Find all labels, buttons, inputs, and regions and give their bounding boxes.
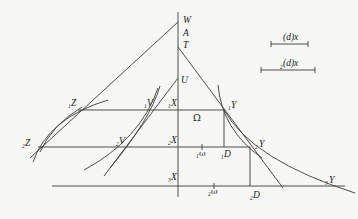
svg-text:Y: Y [259,139,266,149]
label-z1: 1 Z [68,98,77,109]
label-x3: 3 X [167,172,178,183]
svg-text:X: X [170,172,178,182]
svg-text:V: V [119,136,126,146]
svg-text:D: D [252,190,260,200]
label-t: T [183,40,189,50]
svg-text:X: X [170,98,178,108]
svg-text:ω: ω [211,187,218,196]
svg-text:X: X [170,135,178,145]
label-y1: 1 Y [228,100,238,111]
curve-y-outer [224,110,355,193]
svg-text:(d)x: (d)x [283,58,299,69]
label-omega2: 2 ω [208,187,218,197]
label-d2: 2 D [250,190,260,201]
svg-text:ω: ω [199,149,206,158]
label-y2: 2 Y [255,139,266,150]
geometric-diagram: W A T U 1 Z 1 V 1 X 1 Y Ω 2 Z 2 V 2 X 2 … [0,0,358,219]
label-w: W [183,15,192,25]
curve-z-outer [33,100,108,162]
svg-text:Y: Y [329,175,336,185]
label-y3: 3 Y [324,175,336,186]
svg-text:Z: Z [71,98,77,108]
label-omega-upper: Ω [193,112,201,123]
label-a: A [182,28,189,38]
label-x1: 1 X [168,98,178,109]
svg-text:D: D [223,149,231,159]
line-w-z [30,22,178,158]
label-omega1: 1 ω [196,149,206,159]
scale-label-1: (d)x [283,32,299,43]
svg-text:2: 2 [255,144,258,150]
label-v2: 2 V [116,136,126,147]
label-d1: 1 D [221,149,231,160]
label-v1: 1 V [144,98,154,109]
label-x2: 2 X [168,135,178,146]
svg-text:3: 3 [324,180,328,186]
label-u: U [181,75,189,85]
label-z2: 2 Z [22,138,31,149]
scale-label-2: 2 (d)x [280,58,299,70]
svg-text:Y: Y [231,100,238,110]
svg-text:Z: Z [25,138,31,148]
